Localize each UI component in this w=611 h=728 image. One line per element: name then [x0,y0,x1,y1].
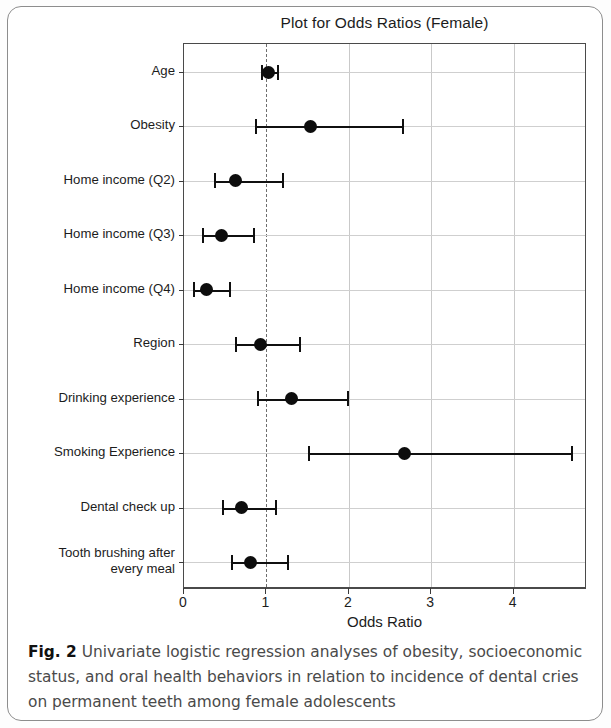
confidence-interval-line [214,181,282,183]
confidence-interval-line [257,399,348,401]
ci-lower-cap [193,282,195,297]
y-axis-label: Home income (Q2) [64,172,175,188]
y-axis-tick [179,508,184,509]
reference-line [266,44,267,587]
ci-lower-cap [202,228,204,243]
chart-title: Plot for Odds Ratios (Female) [183,14,586,32]
y-axis-tick [179,72,184,73]
y-axis-label: Tooth brushing after every meal [58,545,175,577]
ci-upper-cap [571,446,573,461]
odds-ratio-point [398,447,411,460]
x-axis-tick-label: 4 [498,594,528,610]
x-axis-tick-label: 1 [250,594,280,610]
ci-lower-cap [257,391,259,406]
ci-upper-cap [402,119,404,134]
y-axis-label: Age [152,63,175,79]
y-axis-tick [179,562,184,563]
confidence-interval-line [202,235,253,237]
odds-ratio-point [254,338,267,351]
ci-upper-cap [287,555,289,570]
ci-lower-cap [255,119,257,134]
odds-ratio-point [229,174,242,187]
gridline-horizontal [184,290,585,291]
y-axis-label: Home income (Q4) [64,281,175,297]
y-axis-tick [179,453,184,454]
ci-upper-cap [275,500,277,515]
figure-caption: Fig. 2 Univariate logistic regression an… [28,640,588,715]
y-axis-label: Region [133,335,175,351]
x-axis-tick-label: 3 [415,594,445,610]
forest-plot-chart: Plot for Odds Ratios (Female) AgeObesity… [0,0,611,620]
gridline-vertical [349,44,350,587]
confidence-interval-line [255,126,402,128]
y-axis-tick [179,235,184,236]
odds-ratio-point [262,66,275,79]
ci-upper-cap [277,65,279,80]
x-axis-tick-label: 2 [333,594,363,610]
y-axis-labels: AgeObesityHome income (Q2)Home income (Q… [0,43,175,588]
odds-ratio-point [215,229,228,242]
odds-ratio-point [304,120,317,133]
confidence-interval-line [222,508,276,510]
ci-upper-cap [299,337,301,352]
y-axis-label: Drinking experience [58,390,175,406]
ci-upper-cap [229,282,231,297]
y-axis-tick [179,290,184,291]
x-axis-title: Odds Ratio [183,613,586,630]
ci-lower-cap [214,173,216,188]
x-axis-line [183,588,586,589]
y-axis-label: Smoking Experience [54,444,175,460]
x-axis-tick-label: 0 [168,594,198,610]
ci-lower-cap [235,337,237,352]
confidence-interval-line [308,453,571,455]
figure-caption-text: Univariate logistic regression analyses … [28,643,582,711]
figure-number: Fig. 2 [28,643,77,661]
y-axis-tick [179,344,184,345]
odds-ratio-point [285,392,298,405]
ci-lower-cap [222,500,224,515]
gridline-vertical [431,44,432,587]
gridline-horizontal [184,72,585,73]
odds-ratio-point [235,501,248,514]
y-axis-label: Obesity [130,117,175,133]
odds-ratio-point [244,556,257,569]
plot-panel [183,43,586,588]
y-axis-label: Home income (Q3) [64,226,175,242]
ci-upper-cap [282,173,284,188]
y-axis-tick [179,126,184,127]
confidence-interval-line [235,344,299,346]
ci-upper-cap [347,391,349,406]
y-axis-label: Dental check up [80,499,175,515]
ci-lower-cap [308,446,310,461]
figure-page: Plot for Odds Ratios (Female) AgeObesity… [0,0,611,728]
gridline-vertical [514,44,515,587]
gridline-horizontal [184,399,585,400]
ci-upper-cap [253,228,255,243]
confidence-interval-line [231,562,287,564]
ci-lower-cap [231,555,233,570]
y-axis-tick [179,399,184,400]
y-axis-tick [179,181,184,182]
odds-ratio-point [200,283,213,296]
